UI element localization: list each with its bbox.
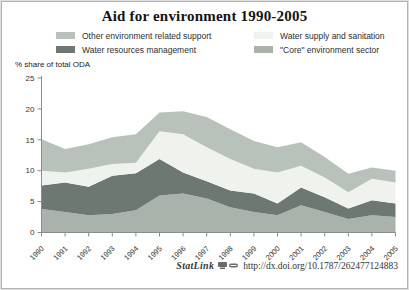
statlink-label: StatLink bbox=[176, 260, 214, 271]
x-axis-tick-label: 1994 bbox=[122, 244, 140, 262]
figure-frame: Aid for environment 1990-2005 Other envi… bbox=[1, 1, 408, 289]
figure: Aid for environment 1990-2005 Other envi… bbox=[0, 0, 409, 290]
x-axis-tick-label: 1993 bbox=[99, 244, 117, 262]
x-axis-tick-label: 1992 bbox=[75, 244, 93, 262]
y-axis-tick-label: 20 bbox=[26, 105, 35, 114]
y-axis-tick-label: 15 bbox=[26, 136, 35, 145]
x-axis-tick-label: 1995 bbox=[146, 244, 164, 262]
x-axis-tick-label: 1990 bbox=[28, 244, 46, 262]
stacked-area-chart: 0510152025199019911992199319941995199619… bbox=[1, 1, 409, 290]
y-axis-tick-label: 0 bbox=[30, 228, 35, 237]
y-axis-tick-label: 10 bbox=[26, 166, 35, 175]
statlink-footer: StatLink http://dx.doi.org/10.1787/26247… bbox=[176, 260, 398, 271]
statlink-url[interactable]: http://dx.doi.org/10.1787/262477124883 bbox=[243, 261, 398, 271]
statlink-icon bbox=[218, 261, 238, 270]
x-axis-tick-label: 1991 bbox=[51, 244, 69, 262]
y-axis-tick-label: 5 bbox=[30, 197, 35, 206]
y-axis-tick-label: 25 bbox=[26, 74, 35, 83]
